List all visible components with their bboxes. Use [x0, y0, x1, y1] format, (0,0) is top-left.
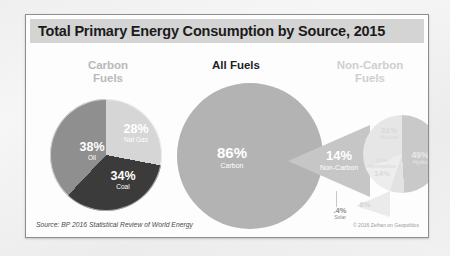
column-heading-all-fuels: All Fuels	[176, 59, 296, 72]
slice-label-six-percent: 6%	[353, 201, 377, 209]
slice-name-other-renewables: Other Renewables	[359, 158, 405, 170]
slice-name-hydro: Hydro	[403, 160, 429, 166]
slice-label-nuclear: 31% Nuclear	[369, 127, 409, 141]
copyright-note: © 2016 Zeihan on Geopolitics	[353, 222, 419, 228]
annotation-label-solar: .4% Solar	[323, 207, 357, 220]
slice-label-other-renewables: Other Renewables 14%	[359, 158, 405, 178]
slice-name-coal: Coal	[100, 184, 146, 191]
slice-value-carbon: 86%	[202, 145, 262, 161]
slice-label-carbon: 86% Carbon	[202, 145, 262, 169]
slice-name-carbon: Carbon	[202, 162, 262, 169]
title-band: Total Primary Energy Consumption by Sour…	[30, 19, 424, 43]
slice-value-oil: 38%	[70, 141, 114, 154]
slice-value-coal: 34%	[100, 170, 146, 183]
page-title: Total Primary Energy Consumption by Sour…	[30, 23, 385, 39]
slice-value-nat-gas: 28%	[114, 123, 158, 136]
column-heading-carbon-fuels: Carbon Fuels	[54, 59, 162, 84]
slice-name-nat-gas: Nat Gas	[114, 137, 158, 144]
slice-value-six-percent: 6%	[353, 201, 377, 209]
slice-label-hydro: 49% Hydro	[403, 151, 429, 166]
source-note: Source: BP 2016 Statistical Review of Wo…	[36, 221, 193, 228]
slice-label-nat-gas: 28% Nat Gas	[114, 123, 158, 144]
slice-name-nuclear: Nuclear	[369, 135, 409, 141]
leader-line-solar	[336, 191, 337, 207]
column-heading-non-carbon-fuels: Non-Carbon Fuels	[314, 59, 426, 84]
annotation-name-solar: Solar	[323, 215, 357, 220]
slice-value-other-renewables: 14%	[359, 170, 405, 178]
slice-label-coal: 34% Coal	[100, 170, 146, 191]
slice-label-oil: 38% Oil	[70, 141, 114, 162]
slice-name-oil: Oil	[70, 155, 114, 162]
infographic-card: Total Primary Energy Consumption by Sour…	[25, 14, 429, 238]
